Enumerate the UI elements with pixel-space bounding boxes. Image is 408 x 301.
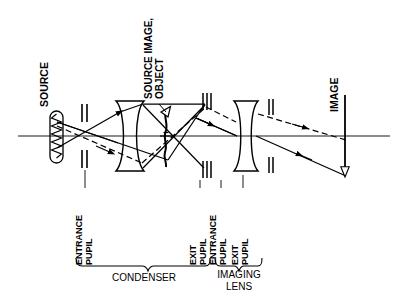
- label-imaging-group-line2: LENS: [226, 281, 252, 292]
- label-imaging-entrance-pupil-line2: PUPIL: [218, 238, 228, 265]
- optics-canvas: SOURCE SOURCE IMAGE, OBJECT IMAGE ENTRAN…: [0, 0, 408, 301]
- ray-bundle-solid: [57, 104, 346, 176]
- label-condenser-exit-pupil-line2: PUPIL: [198, 238, 208, 265]
- label-source-image-line1: SOURCE IMAGE,: [143, 18, 154, 99]
- label-condenser-entrance-pupil-line2: PUPIL: [84, 238, 94, 265]
- label-image: IMAGE: [328, 78, 340, 112]
- label-condenser-entrance-pupil-line1: ENTRANCE: [74, 215, 84, 265]
- label-source-image-line2: OBJECT: [154, 58, 165, 99]
- label-imaging-exit-pupil-line2: PUPIL: [240, 238, 250, 265]
- label-source: SOURCE: [38, 62, 50, 107]
- ray-bundle-dashed: [57, 107, 346, 163]
- optical-diagram: SOURCE SOURCE IMAGE, OBJECT IMAGE ENTRAN…: [0, 0, 408, 301]
- label-condenser-exit-pupil-line1: EXIT: [188, 244, 198, 265]
- label-condenser-group: CONDENSER: [112, 272, 176, 283]
- source-lamp: [50, 111, 63, 163]
- label-imaging-exit-pupil-line1: EXIT: [230, 244, 240, 265]
- label-imaging-entrance-pupil-line1: ENTRANCE: [208, 215, 218, 265]
- label-imaging-group-line1: IMAGING: [217, 269, 261, 280]
- pupil-leader-lines: [85, 170, 243, 188]
